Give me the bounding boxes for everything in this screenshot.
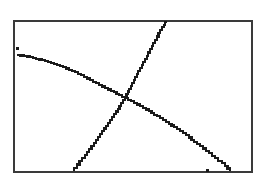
stray-pixel-marker bbox=[16, 47, 19, 50]
bottom-tick-marker bbox=[206, 169, 209, 172]
increasing-curve bbox=[74, 22, 167, 171]
graph-plot-area bbox=[0, 0, 268, 186]
graph-marker-layer bbox=[16, 47, 209, 172]
graph-series-layer bbox=[17, 22, 230, 171]
decreasing-curve bbox=[17, 55, 230, 171]
calculator-graph-screen bbox=[0, 0, 268, 186]
graph-window-frame bbox=[14, 21, 252, 172]
